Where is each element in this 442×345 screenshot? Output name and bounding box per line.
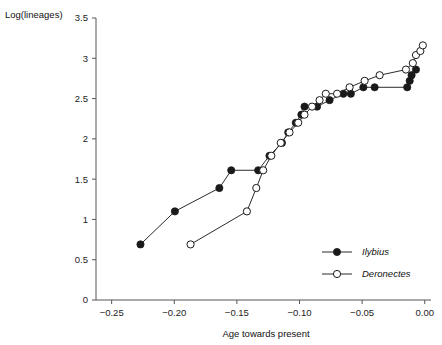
y-tick-label: 0.5 [75,254,88,265]
data-point [347,90,354,97]
data-point [371,84,378,91]
data-point [260,167,267,174]
legend-label: Deronectes [362,268,411,279]
data-point [316,97,323,104]
data-point [361,77,368,84]
data-point [277,139,284,146]
data-point [346,84,353,91]
data-point [301,111,308,118]
chart-legend: IlybiusDeronectes [322,246,411,279]
series-ilybius [137,66,420,248]
x-tick-label: 0.00 [415,307,434,318]
x-tick-label: −0.05 [350,307,374,318]
data-point [268,152,275,159]
lineage-through-time-chart: 00.511.522.533.5 −0.25−0.20−0.15−0.10−0.… [0,0,442,345]
data-point [333,90,340,97]
y-tick-label: 3 [83,53,88,64]
legend-item-deronectes: Deronectes [322,268,411,279]
legend-label: Ilybius [362,246,389,257]
legend-marker-filled-circle-icon [333,248,340,255]
legend-item-ilybius: Ilybius [322,246,389,257]
data-point [376,72,383,79]
legend-marker-open-circle-icon [333,270,340,277]
y-axis-title: Log(lineages) [5,9,63,20]
x-tick-label: −0.10 [287,307,311,318]
y-tick-label: 2 [83,133,88,144]
data-point [360,84,367,91]
y-tick-label: 0 [83,294,88,305]
data-point [243,208,250,215]
y-tick-label: 2.5 [75,93,88,104]
data-point [409,60,416,67]
data-point [228,167,235,174]
series-deronectes [187,42,427,248]
data-point [419,42,426,49]
x-tick-label: −0.20 [162,307,186,318]
data-point [187,241,194,248]
y-axis: 00.511.522.533.5 [75,12,96,305]
x-axis-title: Age towards present [222,328,309,339]
y-tick-label: 1.5 [75,174,88,185]
data-point [171,208,178,215]
y-tick-label: 3.5 [75,12,88,23]
data-point [402,66,409,73]
data-point [253,184,260,191]
data-point [326,97,333,104]
data-point [308,103,315,110]
chart-svg: 00.511.522.533.5 −0.25−0.20−0.15−0.10−0.… [0,0,442,345]
series-line [140,70,416,245]
data-point [216,184,223,191]
x-tick-label: −0.15 [225,307,249,318]
x-axis: −0.25−0.20−0.15−0.10−0.050.00 [96,300,434,318]
data-point [286,129,293,136]
data-point [322,90,329,97]
series-line [191,45,423,244]
data-series-group [137,42,427,248]
data-point [301,103,308,110]
x-tick-label: −0.25 [100,307,124,318]
data-point [295,119,302,126]
data-point [137,241,144,248]
y-tick-label: 1 [83,214,88,225]
